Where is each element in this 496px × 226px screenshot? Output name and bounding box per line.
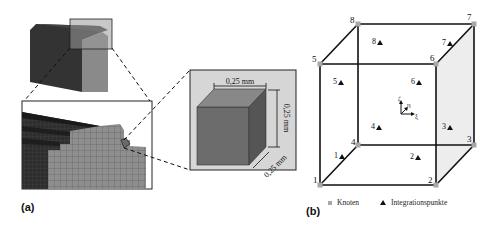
integration-point-label-1: 1 [334, 151, 338, 160]
panel-a-overview-part [30, 19, 112, 92]
integration-point-label-5: 5 [333, 77, 337, 86]
integration-point-label-3: 3 [442, 122, 446, 131]
integration-point-label-7: 7 [442, 38, 446, 47]
integration-point-triangle-icon [416, 80, 422, 85]
node-label-5: 5 [312, 54, 317, 64]
triangle-icon [380, 200, 386, 205]
figure-canvas: 0,25 mm 0,25 mm 0,25 mm 12345678 123456 [0, 0, 496, 226]
node-square-icon [328, 201, 332, 205]
integration-point-label-8: 8 [372, 37, 376, 46]
panel-b-label: (b) [306, 205, 320, 217]
node-marker-5 [318, 62, 323, 67]
node-marker-3 [472, 143, 477, 148]
panel-a-label: (a) [21, 201, 34, 213]
node-marker-1 [318, 183, 323, 188]
node-marker-7 [472, 22, 477, 27]
integration-point-triangle-icon [377, 40, 383, 45]
legend-integration-points: Integrationspunkte [380, 198, 447, 207]
dim-height-label: 0,25 mm [282, 104, 291, 133]
integration-point-label-2: 2 [410, 152, 414, 161]
node-marker-8 [356, 22, 361, 27]
node-label-1: 1 [313, 175, 318, 185]
integration-point-triangle-icon [376, 125, 382, 130]
node-label-2: 2 [428, 175, 433, 185]
node-label-8: 8 [350, 15, 355, 25]
node-label-4: 4 [351, 137, 356, 147]
integration-point-triangle-icon [415, 155, 421, 160]
panel-a-mesh-detail [22, 101, 152, 189]
axis-zeta-label: ζ [398, 95, 401, 103]
axis-eta-label: η [407, 101, 411, 109]
node-marker-2 [434, 183, 439, 188]
integration-point-triangle-icon [339, 154, 345, 159]
panel-b-hex-element: 12345678 12345678 ζ η ξ [312, 12, 477, 188]
integration-point-label-6: 6 [411, 77, 415, 86]
integration-point-label-4: 4 [371, 122, 375, 131]
node-marker-4 [356, 143, 361, 148]
panel-a-element-inset: 0,25 mm 0,25 mm 0,25 mm [190, 70, 296, 179]
node-label-3: 3 [467, 134, 472, 144]
legend-integration-label: Integrationspunkte [391, 198, 447, 207]
node-label-6: 6 [430, 53, 435, 63]
integration-point-triangle-icon [338, 80, 344, 85]
legend-nodes-label: Knoten [337, 198, 359, 207]
axis-xi-label: ξ [415, 112, 418, 120]
legend-nodes: Knoten [328, 198, 359, 207]
node-label-7: 7 [467, 12, 472, 22]
integration-point-triangle-icon [447, 41, 453, 46]
dim-width-label: 0,25 mm [226, 77, 255, 86]
